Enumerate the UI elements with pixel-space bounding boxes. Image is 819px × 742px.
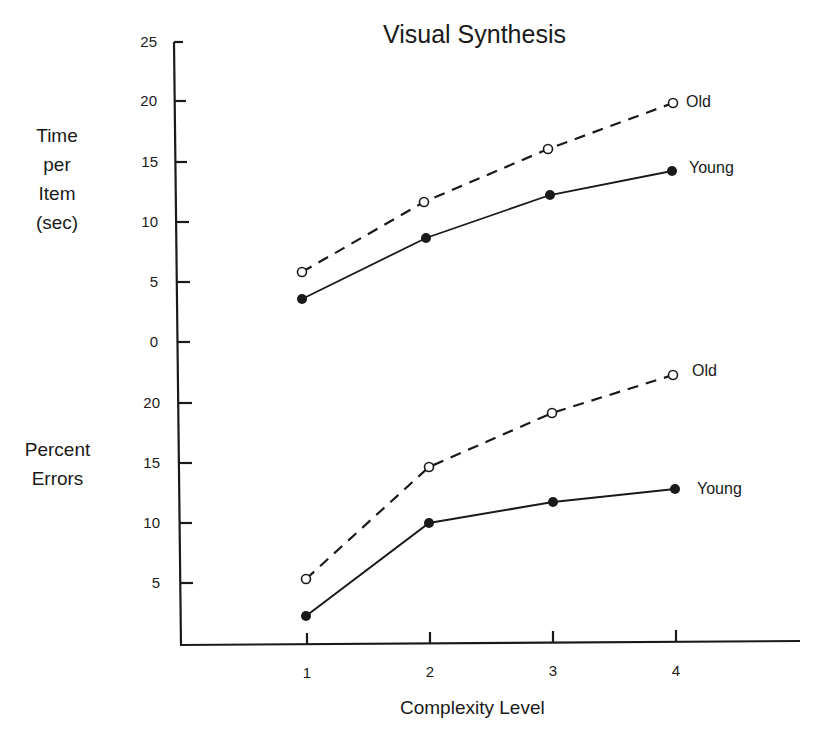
marker-top-old-3 — [544, 145, 553, 154]
line-top-old — [302, 103, 673, 272]
marker-bottom-old-2 — [425, 463, 434, 472]
marker-top-old-2 — [420, 198, 429, 207]
x-axis-line — [180, 641, 800, 645]
chart-plot-area — [0, 0, 819, 742]
marker-bottom-young-3 — [548, 497, 558, 507]
marker-bottom-old-1 — [302, 575, 311, 584]
marker-top-young-3 — [545, 190, 555, 200]
open-circle-markers — [298, 99, 678, 584]
marker-bottom-young-2 — [424, 518, 434, 528]
line-bottom-young — [306, 489, 675, 616]
marker-top-young-2 — [421, 233, 431, 243]
marker-bottom-old-4 — [669, 371, 678, 380]
marker-bottom-young-4 — [670, 484, 680, 494]
filled-circle-markers — [297, 166, 680, 621]
marker-bottom-young-1 — [301, 611, 311, 621]
line-bottom-old — [306, 375, 673, 579]
marker-top-young-4 — [667, 166, 677, 176]
y-axis-line — [174, 42, 181, 645]
marker-top-young-1 — [297, 294, 307, 304]
marker-top-old-4 — [669, 99, 678, 108]
marker-bottom-old-3 — [548, 409, 557, 418]
marker-top-old-1 — [298, 268, 307, 277]
line-top-young — [302, 171, 672, 299]
